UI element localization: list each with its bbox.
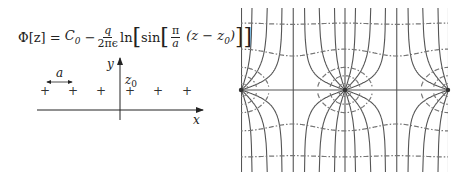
field-line [449,3,460,90]
field-line-plot [0,0,471,177]
field-line [449,90,471,177]
field-line [97,90,138,177]
field-line [231,90,242,177]
field-line [97,3,138,90]
line-charge-dot [343,88,347,92]
field-line [216,90,242,177]
field-line [449,90,471,177]
field-line [138,3,164,90]
field-line [242,90,253,177]
field-line [138,90,179,177]
field-line [127,3,138,90]
field-line [127,90,138,177]
field-line [216,3,242,90]
field-line [231,3,242,90]
field-line [138,90,164,177]
field-line [345,3,386,90]
field-line [138,3,149,90]
field-line [112,90,138,177]
field-line [345,90,386,177]
field-line [138,90,149,177]
field-line [138,3,179,90]
field-line [201,90,242,177]
line-charge-dot [446,88,450,92]
field-line [449,90,460,177]
field-line [449,3,471,90]
field-line [242,3,253,90]
line-charge-dot [239,88,243,92]
field-line [201,3,242,90]
field-line [242,90,283,177]
field-line [449,3,471,90]
field-line [112,3,138,90]
field-line [242,3,283,90]
